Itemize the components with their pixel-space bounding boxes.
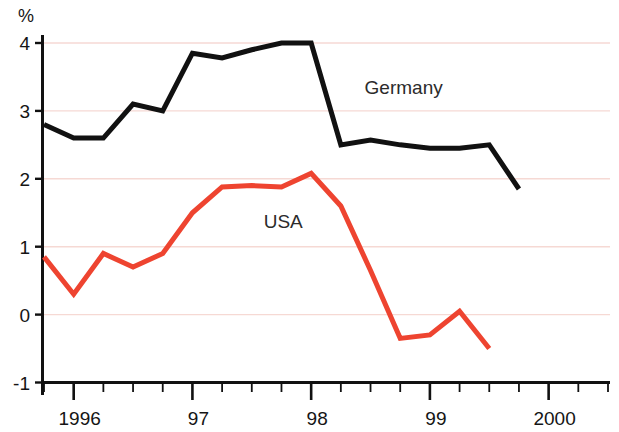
y-axis-tick-label: 2 — [19, 169, 30, 190]
series-annotation-usa: USA — [264, 211, 303, 232]
y-axis-unit-label: % — [18, 6, 34, 26]
x-axis-tick-label: 2000 — [533, 408, 575, 429]
x-axis-tick-label: 98 — [307, 408, 328, 429]
series-line-germany — [44, 43, 519, 189]
y-axis-tick-label: 1 — [19, 237, 30, 258]
x-axis-tick-label: 97 — [188, 408, 209, 429]
series-annotation-germany: Germany — [365, 77, 444, 98]
series-annotations-group: GermanyUSA — [264, 77, 444, 232]
line-chart: 43210-1 19969798992000 % GermanyUSA — [0, 0, 619, 432]
series-paths-group — [44, 43, 519, 349]
x-axis-ticks-group — [44, 383, 608, 400]
x-axis-tick-label: 99 — [425, 408, 446, 429]
x-axis-tick-labels-group: 19969798992000 — [59, 408, 576, 429]
y-axis-tick-labels-group: 43210-1 — [13, 33, 30, 394]
y-axis-tick-label: 4 — [19, 33, 30, 54]
x-axis-tick-label: 1996 — [59, 408, 101, 429]
y-axis-tick-label: 3 — [19, 101, 30, 122]
y-axis-tick-label: 0 — [19, 305, 30, 326]
chart-container: 43210-1 19969798992000 % GermanyUSA — [0, 0, 619, 432]
series-line-usa — [44, 173, 489, 348]
y-axis-tick-label: -1 — [13, 373, 30, 394]
